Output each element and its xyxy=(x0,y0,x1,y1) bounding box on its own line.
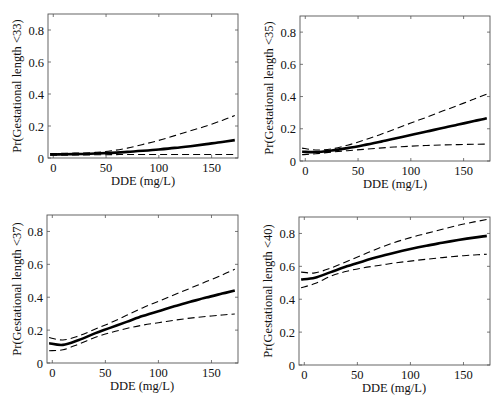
y-tick-label: 0.8 xyxy=(27,225,43,239)
upper-ci-line xyxy=(302,94,487,150)
x-axis-label: DDE (mg/L) xyxy=(362,381,426,395)
y-tick-label: 0 xyxy=(290,155,296,169)
x-tick-label: 50 xyxy=(100,161,113,175)
figure-2x2-grid: Pr(Gestational length <33) DDE (mg/L) 00… xyxy=(0,0,502,405)
x-tick-label: 0 xyxy=(302,164,308,178)
y-tick-label: 0.8 xyxy=(280,26,296,40)
y-axis-label: Pr(Gestational length <37) xyxy=(10,222,24,355)
x-tick-label: 100 xyxy=(149,161,168,175)
y-tick-label: 0.6 xyxy=(28,56,44,70)
x-tick-label: 0 xyxy=(49,366,55,380)
x-axis-label: DDE (mg/L) xyxy=(110,379,174,393)
y-tick-label: 0.4 xyxy=(280,90,296,104)
y-tick-label: 0 xyxy=(37,357,43,371)
x-tick-label: 100 xyxy=(401,368,420,382)
panel-gestation-lt-37: Pr(Gestational length <37) DDE (mg/L) 00… xyxy=(10,215,238,393)
y-tick-label: 0 xyxy=(289,359,295,373)
x-tick-label: 100 xyxy=(401,164,420,178)
x-axis-label: DDE (mg/L) xyxy=(363,177,427,191)
x-tick-label: 150 xyxy=(454,164,473,178)
x-tick-label: 100 xyxy=(149,366,168,380)
x-tick-label: 50 xyxy=(352,164,365,178)
panel-gestation-lt-40: Pr(Gestational length <40) DDE (mg/L) 00… xyxy=(261,217,490,395)
y-tick-label: 0 xyxy=(38,152,44,166)
x-tick-label: 0 xyxy=(50,161,56,175)
estimate-line xyxy=(301,236,487,280)
axes-frame xyxy=(48,14,238,158)
lower-ci-line xyxy=(50,155,235,156)
panel-gestation-lt-35: Pr(Gestational length <35) DDE (mg/L) 00… xyxy=(262,16,490,191)
x-tick-label: 150 xyxy=(454,368,473,382)
lower-ci-line xyxy=(49,314,235,351)
y-tick-label: 0.2 xyxy=(27,324,43,338)
x-tick-label: 150 xyxy=(202,161,221,175)
lower-ci-line xyxy=(301,254,487,288)
y-axis-label: Pr(Gestational length <40) xyxy=(261,224,275,357)
y-tick-label: 0.8 xyxy=(279,227,295,241)
x-tick-label: 0 xyxy=(301,368,307,382)
y-tick-label: 0.4 xyxy=(27,291,43,305)
x-axis-label: DDE (mg/L) xyxy=(111,174,175,188)
y-tick-label: 0.4 xyxy=(279,293,295,307)
y-tick-label: 0.6 xyxy=(280,58,296,72)
chart-canvas: Pr(Gestational length <33) DDE (mg/L) 00… xyxy=(0,0,502,405)
upper-ci-line xyxy=(49,269,235,340)
y-tick-label: 0.4 xyxy=(28,88,44,102)
y-tick-label: 0.2 xyxy=(280,122,296,136)
y-axis-label: Pr(Gestational length <35) xyxy=(262,21,276,154)
x-tick-label: 50 xyxy=(351,368,364,382)
y-tick-label: 0.6 xyxy=(27,258,43,272)
y-axis-label: Pr(Gestational length <33) xyxy=(10,19,24,152)
y-tick-label: 0.2 xyxy=(279,326,295,340)
estimate-line xyxy=(50,140,235,154)
y-tick-label: 0.6 xyxy=(279,260,295,274)
panel-gestation-lt-33: Pr(Gestational length <33) DDE (mg/L) 00… xyxy=(10,14,238,188)
y-tick-label: 0.2 xyxy=(28,120,44,134)
upper-ci-line xyxy=(301,220,487,274)
x-tick-label: 150 xyxy=(202,366,221,380)
x-tick-label: 50 xyxy=(99,366,112,380)
y-tick-label: 0.8 xyxy=(28,24,44,38)
upper-ci-line xyxy=(50,116,235,154)
